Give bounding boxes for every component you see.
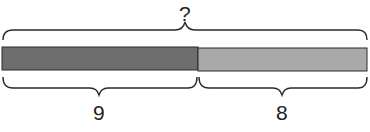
total-label: ? (179, 3, 191, 24)
bottom-brace-1 (3, 77, 197, 95)
part-bar-1 (2, 47, 198, 70)
part-label-2: 8 (276, 102, 288, 123)
part-label-1: 9 (93, 102, 105, 123)
bottom-brace-2 (199, 77, 367, 95)
part-bar-2 (198, 48, 367, 71)
